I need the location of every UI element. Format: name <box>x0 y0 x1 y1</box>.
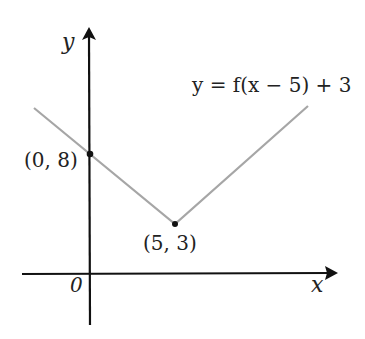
origin-label: 0 <box>70 273 83 297</box>
y-axis <box>82 27 96 325</box>
point-5-3 <box>172 221 178 227</box>
point-0-8 <box>87 151 94 158</box>
x-axis-label: x <box>311 272 324 297</box>
graph-canvas: y x 0 (0, 8) (5, 3) y = f(x − 5) + 3 <box>0 0 365 339</box>
equation-label: y = f(x − 5) + 3 <box>191 73 351 97</box>
y-axis-label: y <box>61 29 75 54</box>
point-label-5-3: (5, 3) <box>143 231 197 255</box>
point-label-0-8: (0, 8) <box>24 148 78 172</box>
